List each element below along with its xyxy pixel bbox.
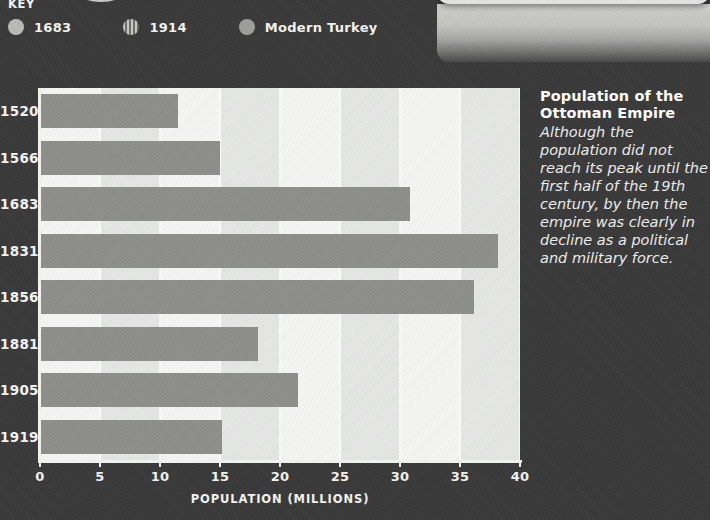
x-axis-tick: [159, 460, 161, 467]
striped-circle-icon: [123, 19, 139, 35]
x-axis-tick-label: 30: [391, 469, 410, 484]
chart-bar-row: [40, 321, 258, 368]
y-axis-tick-label: 1520: [0, 103, 38, 119]
solid-circle-icon: [239, 19, 255, 35]
side-panel-body: Although the population did not reach it…: [540, 124, 710, 268]
side-text-panel: Population of the Ottoman Empire Althoug…: [540, 88, 710, 268]
x-axis-title: POPULATION (MILLIONS): [40, 492, 520, 506]
legend-label-1683: 1683: [34, 20, 71, 35]
legend-item-1914[interactable]: 1914: [123, 19, 186, 35]
chart-bar-row: [40, 367, 298, 414]
chart-bar-row: [40, 181, 410, 228]
y-axis-tick-label: 1683: [0, 196, 38, 212]
x-axis-tick-label: 25: [331, 469, 350, 484]
legend-title: KEY: [8, 0, 35, 11]
top-card-shadow: [437, 4, 710, 62]
y-axis-tick-label: 1881: [0, 336, 38, 352]
chart-plot-area: [40, 88, 520, 460]
x-axis-tick-label: 40: [511, 469, 530, 484]
chart-bar[interactable]: [40, 187, 410, 221]
chart-bar[interactable]: [40, 420, 222, 454]
chart-legend: KEY 1683 1914 Modern Turkey: [4, 0, 424, 50]
legend-label-modern-turkey: Modern Turkey: [265, 20, 378, 35]
population-bar-chart: POPULATION (MILLIONS) 152015661683183118…: [0, 88, 528, 520]
legend-label-1914: 1914: [149, 20, 186, 35]
chart-bar-row: [40, 228, 498, 275]
chart-bar-row: [40, 135, 220, 182]
chart-bar[interactable]: [40, 280, 474, 314]
x-axis-tick: [279, 460, 281, 467]
x-axis-tick: [459, 460, 461, 467]
x-axis-tick-label: 5: [95, 469, 104, 484]
y-axis-line: [38, 88, 41, 460]
x-axis-tick: [339, 460, 341, 467]
chart-gridline: [519, 88, 520, 460]
y-axis-tick-label: 1905: [0, 382, 38, 398]
solid-circle-icon: [8, 19, 24, 35]
chart-bar-row: [40, 274, 474, 321]
x-axis-tick: [39, 460, 41, 467]
x-axis-tick-label: 15: [211, 469, 230, 484]
x-axis-tick-label: 20: [271, 469, 290, 484]
side-panel-title: Population of the Ottoman Empire: [540, 88, 710, 122]
x-axis-tick: [399, 460, 401, 467]
x-axis-tick-label: 35: [451, 469, 470, 484]
x-axis-tick-label: 0: [35, 469, 44, 484]
x-axis-tick-label: 10: [151, 469, 170, 484]
chart-bar[interactable]: [40, 234, 498, 268]
y-axis-tick-label: 1566: [0, 150, 38, 166]
y-axis-tick-label: 1919: [0, 429, 38, 445]
x-axis-tick: [99, 460, 101, 467]
y-axis-tick-label: 1856: [0, 289, 38, 305]
x-axis-tick: [519, 460, 521, 467]
y-axis-tick-label: 1831: [0, 243, 38, 259]
chart-bar[interactable]: [40, 141, 220, 175]
decorative-blob-icon: [80, 0, 122, 2]
x-axis-tick: [219, 460, 221, 467]
legend-items: 1683 1914 Modern Turkey: [8, 19, 396, 35]
chart-bar[interactable]: [40, 327, 258, 361]
chart-bar-row: [40, 88, 178, 135]
chart-bar[interactable]: [40, 94, 178, 128]
chart-bar[interactable]: [40, 373, 298, 407]
chart-bar-row: [40, 414, 222, 461]
legend-item-1683[interactable]: 1683: [8, 19, 71, 35]
legend-item-modern-turkey[interactable]: Modern Turkey: [239, 19, 378, 35]
top-info-card: sophisticated state.: [437, 0, 710, 4]
